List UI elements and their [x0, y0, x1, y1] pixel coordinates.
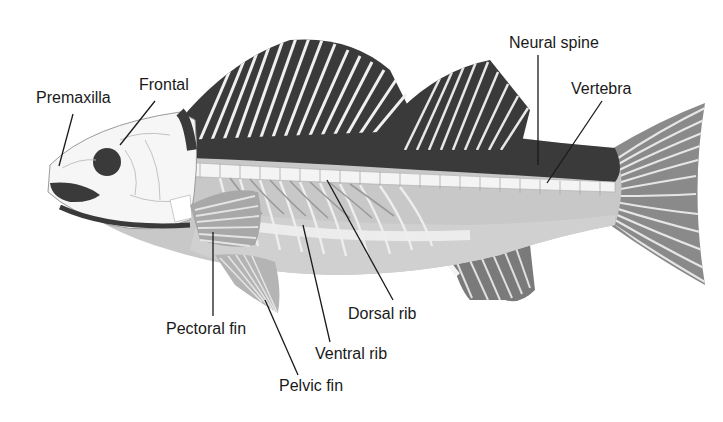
eye-orbit	[93, 148, 121, 176]
skull	[48, 112, 197, 229]
pelvic-fin-shape	[215, 254, 279, 313]
label-premaxilla: Premaxilla	[36, 89, 111, 107]
label-pelvic-fin: Pelvic fin	[279, 377, 343, 395]
label-neural-spine: Neural spine	[509, 34, 599, 52]
fish-skeleton-diagram: Premaxilla Frontal Neural spine Vertebra…	[0, 0, 723, 422]
pelvic-fin-leader	[265, 300, 298, 375]
soft-dorsal-fin	[400, 60, 530, 150]
caudal-fin	[610, 103, 705, 285]
label-dorsal-rib: Dorsal rib	[348, 305, 416, 323]
spiny-dorsal-fin	[180, 38, 420, 140]
label-frontal: Frontal	[139, 76, 189, 94]
label-ventral-rib: Ventral rib	[315, 345, 387, 363]
label-vertebra: Vertebra	[571, 80, 631, 98]
label-pectoral-fin: Pectoral fin	[166, 320, 246, 338]
